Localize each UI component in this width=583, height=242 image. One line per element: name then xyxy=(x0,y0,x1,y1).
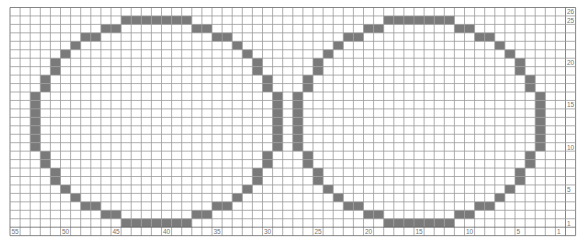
filled-cell xyxy=(353,202,363,210)
filled-cell xyxy=(475,202,485,210)
filled-cell xyxy=(394,16,404,24)
filled-cell xyxy=(454,24,464,32)
filled-cell xyxy=(50,67,60,75)
filled-cell xyxy=(252,67,262,75)
filled-cell xyxy=(71,41,81,49)
knitting-chart: 5550454035302520151051262520151051 xyxy=(0,0,583,242)
filled-cell xyxy=(50,168,60,176)
filled-cell xyxy=(535,126,545,134)
column-label: 50 xyxy=(62,228,70,235)
column-label: 45 xyxy=(113,228,121,235)
filled-cell xyxy=(222,202,232,210)
filled-cell xyxy=(303,160,313,168)
column-label: 5 xyxy=(517,228,521,235)
filled-cell xyxy=(515,168,525,176)
filled-cell xyxy=(131,219,141,227)
row-label: 5 xyxy=(567,186,571,193)
filled-cell xyxy=(30,92,40,100)
filled-cell xyxy=(30,100,40,108)
filled-cell xyxy=(535,100,545,108)
filled-cell xyxy=(374,24,384,32)
column-label: 1 xyxy=(557,228,561,235)
filled-cell xyxy=(273,109,283,117)
filled-cell xyxy=(141,16,151,24)
filled-cell xyxy=(182,219,192,227)
filled-cell xyxy=(30,134,40,142)
filled-cell xyxy=(61,185,71,193)
row-label: 26 xyxy=(567,8,575,15)
column-label: 40 xyxy=(163,228,171,235)
filled-cell xyxy=(30,143,40,151)
filled-cell xyxy=(293,143,303,151)
filled-cell xyxy=(444,219,454,227)
filled-cell xyxy=(151,219,161,227)
filled-cell xyxy=(172,219,182,227)
filled-cell xyxy=(222,33,232,41)
filled-cell xyxy=(293,92,303,100)
filled-cell xyxy=(313,58,323,66)
filled-cell xyxy=(394,219,404,227)
filled-cell xyxy=(192,210,202,218)
column-label: 20 xyxy=(365,228,373,235)
filled-cell xyxy=(293,100,303,108)
filled-cell xyxy=(535,92,545,100)
filled-cell xyxy=(505,50,515,58)
filled-cell xyxy=(263,75,273,83)
filled-cell xyxy=(81,202,91,210)
filled-cell xyxy=(81,33,91,41)
filled-cell xyxy=(343,202,353,210)
filled-cell xyxy=(252,177,262,185)
filled-cell xyxy=(323,50,333,58)
filled-cell xyxy=(141,219,151,227)
filled-cell xyxy=(61,50,71,58)
filled-cell xyxy=(242,185,252,193)
filled-cell xyxy=(515,177,525,185)
column-label: 35 xyxy=(214,228,222,235)
filled-cell xyxy=(101,24,111,32)
filled-cell xyxy=(485,202,495,210)
row-label: 25 xyxy=(567,17,575,24)
filled-cell xyxy=(313,67,323,75)
filled-cell xyxy=(535,143,545,151)
filled-cell xyxy=(252,58,262,66)
filled-cell xyxy=(515,67,525,75)
filled-cell xyxy=(434,16,444,24)
filled-cell xyxy=(343,33,353,41)
filled-cell xyxy=(313,168,323,176)
filled-cell xyxy=(293,126,303,134)
filled-cell xyxy=(212,33,222,41)
filled-cell xyxy=(333,193,343,201)
filled-cell xyxy=(30,117,40,125)
filled-cell xyxy=(263,84,273,92)
filled-cell xyxy=(525,160,535,168)
column-label: 30 xyxy=(264,228,272,235)
filled-cell xyxy=(111,210,121,218)
filled-cell xyxy=(515,58,525,66)
filled-cell xyxy=(434,219,444,227)
filled-cell xyxy=(273,117,283,125)
filled-cell xyxy=(293,134,303,142)
filled-cell xyxy=(273,134,283,142)
filled-cell xyxy=(273,92,283,100)
row-label: 20 xyxy=(567,59,575,66)
filled-cell xyxy=(121,219,131,227)
filled-cell xyxy=(273,126,283,134)
filled-cell xyxy=(192,24,202,32)
filled-cell xyxy=(485,33,495,41)
filled-cell xyxy=(465,24,475,32)
filled-cell xyxy=(303,151,313,159)
filled-cell xyxy=(40,84,50,92)
filled-cell xyxy=(162,219,172,227)
filled-cell xyxy=(273,100,283,108)
filled-cell xyxy=(293,109,303,117)
filled-cell xyxy=(30,126,40,134)
filled-cell xyxy=(374,210,384,218)
filled-cell xyxy=(242,50,252,58)
filled-cell xyxy=(525,84,535,92)
filled-cell xyxy=(364,210,374,218)
filled-cell xyxy=(101,210,111,218)
filled-cell xyxy=(525,75,535,83)
filled-cell xyxy=(40,160,50,168)
filled-cell xyxy=(232,41,242,49)
filled-cell xyxy=(414,16,424,24)
